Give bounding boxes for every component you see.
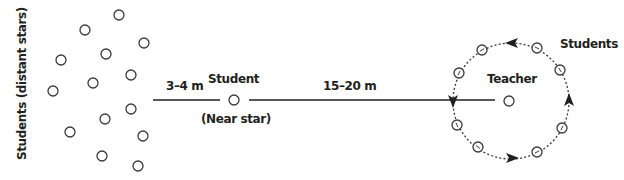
- distant-star-circle: [101, 49, 111, 59]
- distant-star-circle: [65, 127, 75, 137]
- arrow-right-icon: [506, 153, 519, 163]
- orbit-student-circle: [532, 43, 542, 53]
- orbit-student-circle: [532, 147, 542, 157]
- distant-star-circle: [80, 25, 90, 35]
- distant-stars-label: Students (distant stars): [15, 7, 29, 160]
- distant-star-circle: [139, 38, 149, 48]
- orbit-student-circle: [452, 120, 462, 130]
- far-distance-label: 15–20 m: [323, 79, 376, 93]
- distant-star-circle: [133, 161, 143, 171]
- orbit-students-label: Students: [560, 37, 618, 51]
- distant-star-circle: [100, 114, 110, 124]
- teacher-label: Teacher: [487, 72, 537, 86]
- near-star-label: (Near star): [201, 112, 271, 126]
- distant-star-circle: [126, 70, 136, 80]
- near-star-circle: [229, 95, 239, 105]
- orbit-student-circle: [454, 68, 464, 78]
- distant-star-circle: [126, 104, 136, 114]
- distant-star-circle: [48, 86, 58, 96]
- distant-star-circle: [138, 131, 148, 141]
- near-distance-label: 3–4 m: [166, 79, 203, 93]
- distant-star-circle: [88, 78, 98, 88]
- orbit-student-circle: [477, 45, 487, 55]
- arrow-up-icon: [564, 93, 574, 106]
- distant-stars-group: [48, 10, 149, 171]
- orbit-student-circle: [555, 65, 565, 75]
- distant-star-circle: [56, 55, 66, 65]
- distant-star-circle: [114, 10, 124, 20]
- teacher-circle: [504, 96, 514, 106]
- orbit-student-circle: [473, 142, 483, 152]
- orbit-student-circle: [557, 123, 567, 133]
- parallax-diagram: Students (distant stars) 3–4 m Student (…: [0, 0, 624, 180]
- near-student-label: Student: [208, 72, 260, 86]
- distant-star-circle: [97, 151, 107, 161]
